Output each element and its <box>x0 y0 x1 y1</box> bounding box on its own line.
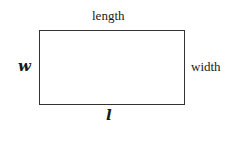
l-variable-label: l <box>106 108 112 123</box>
rectangle-shape <box>39 30 185 105</box>
length-label: length <box>92 9 125 22</box>
w-variable-label: w <box>18 59 31 74</box>
width-label: width <box>191 60 221 73</box>
